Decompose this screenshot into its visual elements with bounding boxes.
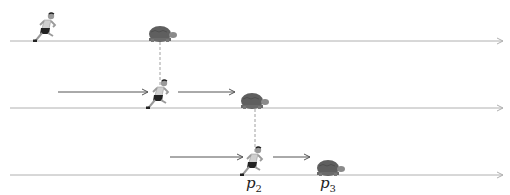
tortoise-icon	[149, 26, 177, 42]
tortoise-icon	[241, 93, 269, 109]
runner-icon	[240, 147, 262, 176]
runner-icon	[33, 13, 55, 42]
row-1	[10, 13, 503, 88]
label-p2: p2	[246, 174, 262, 194]
row-2	[10, 80, 503, 153]
achilles-tortoise-diagram	[0, 0, 510, 195]
runner-icon	[146, 80, 168, 109]
row-3	[10, 147, 503, 176]
label-p3: p3	[320, 174, 336, 194]
